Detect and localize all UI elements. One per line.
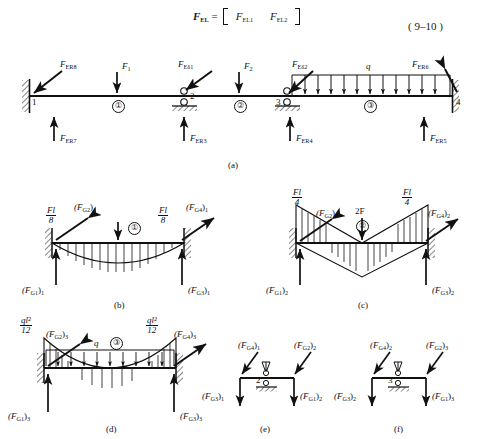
- label-fed2: FEδ2: [292, 60, 307, 70]
- element-label-2-c: ②: [356, 220, 369, 233]
- label-fed1-subscript: Eδ1: [184, 63, 194, 70]
- node-label-4: 4: [456, 98, 461, 107]
- label-fg2-b-subscript: G2: [83, 206, 91, 213]
- label-fer3: FER3: [190, 134, 207, 144]
- label-fg3-d: (FG3)3: [180, 412, 202, 422]
- label-fg3-b-index: 1: [207, 289, 210, 296]
- label-fg4-c: (FG4)2: [428, 209, 450, 219]
- label-fg2-f-subscript: G2: [435, 344, 443, 351]
- fraction-d-right-num: ql²: [146, 316, 158, 325]
- caption-e: (e): [260, 424, 270, 434]
- fraction-c-right-num: Fl: [402, 188, 412, 197]
- fraction-c-right-den: 4: [402, 197, 412, 207]
- label-fg1-b-index: 1: [41, 289, 44, 296]
- fraction-d-right: ql² 12: [146, 316, 158, 335]
- element-label-3-a: ③: [364, 100, 377, 113]
- label-moment-right-c: Fl 4: [402, 188, 412, 207]
- label-fg1-c-subscript: G1: [275, 289, 283, 296]
- label-fg4-b: (FG4)1: [186, 203, 208, 213]
- label-f1-subscript: 1: [128, 65, 131, 72]
- label-fg1-e-subscript: G1: [309, 395, 317, 402]
- fraction-c-left: Fl 4: [292, 188, 302, 207]
- element-label-1-a: ①: [112, 100, 125, 113]
- label-moment-left-c: Fl 4: [292, 188, 302, 207]
- label-fg2-e-subscript: G2: [303, 344, 311, 351]
- label-fg4-f-subscript: G4: [379, 344, 387, 351]
- label-fg2-b-symbol: (F: [74, 202, 83, 212]
- label-fg3-d-symbol: (F: [180, 411, 189, 421]
- element-label-1-b: ①: [128, 222, 141, 235]
- label-fg4-c-index: 2: [447, 212, 450, 219]
- label-fg4-f-index: 2: [389, 344, 392, 351]
- label-fg3-d-subscript: G3: [189, 415, 197, 422]
- caption-b: (b): [114, 300, 125, 310]
- label-fg2-c-index: 2: [335, 212, 338, 219]
- element-label-3-d: ③: [110, 337, 123, 350]
- label-fg3-b-symbol: (F: [188, 285, 197, 295]
- label-fer7-subscript: ER7: [66, 137, 77, 144]
- fraction-c-left-den: 4: [292, 197, 302, 207]
- label-q-a-symbol: q: [366, 61, 371, 71]
- label-fg1-e-index: 2: [319, 395, 322, 402]
- label-fer4-subscript: ER4: [302, 137, 313, 144]
- label-fg1-f: (FG1)3: [432, 392, 454, 402]
- label-fg1-f-symbol: (F: [432, 391, 441, 401]
- label-fg3-e-symbol: (F: [202, 391, 211, 401]
- node-label-3: 3: [276, 98, 281, 107]
- label-fg1-d: (FG1)3: [8, 412, 30, 422]
- label-q-d-symbol: q: [94, 338, 99, 348]
- label-fg2-b-index: 1: [93, 206, 96, 213]
- label-fg4-f-symbol: (F: [370, 340, 379, 350]
- label-fg1-d-symbol: (F: [8, 411, 17, 421]
- label-fg3-e-index: 1: [221, 395, 224, 402]
- label-fg2-f-symbol: (F: [426, 340, 435, 350]
- figure-d-graphics: [37, 338, 206, 412]
- label-fg4-d: (FG4)3: [174, 330, 196, 340]
- label-fg4-e-index: 1: [257, 344, 260, 351]
- label-fg4-c-symbol: (F: [428, 208, 437, 218]
- node-label-2: 2: [190, 92, 195, 101]
- label-fg3-f-subscript: G3: [343, 395, 351, 402]
- label-fed2-subscript: Eδ2: [298, 63, 308, 70]
- fraction-d-right-den: 12: [146, 325, 158, 335]
- label-load-2f-c: 2F: [355, 207, 365, 216]
- label-fg3-f-index: 2: [353, 395, 356, 402]
- label-fer8-subscript: ER8: [66, 63, 77, 70]
- label-fg2-d-symbol: (F: [46, 329, 55, 339]
- label-moment-left-d: ql² 12: [20, 316, 32, 335]
- label-q-a: q: [366, 62, 371, 71]
- node-label-e: 2: [256, 376, 261, 385]
- figure-a-distributed-load: [292, 75, 450, 95]
- label-fer5: FER5: [430, 134, 447, 144]
- label-fer3-subscript: ER3: [196, 137, 207, 144]
- caption-d: (d): [106, 424, 117, 434]
- label-fer7: FER7: [60, 134, 77, 144]
- label-fg2-f: (FG2)3: [426, 341, 448, 351]
- label-fg3-c: (FG3)2: [432, 286, 454, 296]
- label-fg2-f-index: 3: [445, 344, 448, 351]
- label-fg1-f-index: 3: [451, 395, 454, 402]
- fraction-c-left-num: Fl: [292, 188, 302, 197]
- label-fg1-f-subscript: G1: [441, 395, 449, 402]
- label-fg3-e: (FG3)1: [202, 392, 224, 402]
- fraction-d-left-num: ql²: [20, 316, 32, 325]
- label-fg3-f-symbol: (F: [334, 391, 343, 401]
- label-fer5-subscript: ER5: [436, 137, 447, 144]
- label-fg1-c-symbol: (F: [266, 285, 275, 295]
- fraction-b-left-den: 8: [46, 215, 56, 225]
- label-fg3-e-subscript: G3: [211, 395, 219, 402]
- label-fg4-e: (FG4)1: [238, 341, 260, 351]
- caption-c: (c): [358, 300, 368, 310]
- label-fg3-b: (FG3)1: [188, 286, 210, 296]
- label-fg4-c-subscript: G4: [437, 212, 445, 219]
- label-fg1-e-symbol: (F: [300, 391, 309, 401]
- fraction-b-right-num: Fl: [158, 206, 168, 215]
- label-fg4-d-symbol: (F: [174, 329, 183, 339]
- label-moment-right-d: ql² 12: [146, 316, 158, 335]
- label-fg3-c-index: 2: [451, 289, 454, 296]
- label-fg4-e-symbol: (F: [238, 340, 247, 350]
- label-q-d: q: [94, 339, 99, 348]
- node-label-f: 3: [388, 376, 393, 385]
- label-f1: F1: [122, 62, 131, 72]
- label-fg2-d: (FG2)3: [46, 330, 68, 340]
